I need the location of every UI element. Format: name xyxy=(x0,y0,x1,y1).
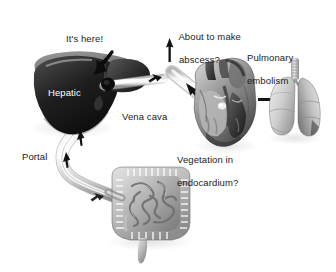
label-vena-cava: Vena cava xyxy=(122,111,167,122)
label-pulmonary-line2: embolism xyxy=(247,75,288,86)
diagram-canvas: It's here! Hepatic Portal Vena cava Abou… xyxy=(0,0,336,272)
label-hepatic: Hepatic xyxy=(48,87,81,98)
thrombus-illustration xyxy=(101,78,115,91)
label-abscess-question: About to make abscess? xyxy=(168,19,241,77)
label-pulmonary-embolism: Pulmonary embolism xyxy=(236,40,293,98)
label-its-here: It's here! xyxy=(66,33,103,44)
label-vegetation-line2: endocardium? xyxy=(177,177,238,188)
label-abscess-line1: About to make xyxy=(178,31,241,42)
label-abscess-line2: abscess? xyxy=(179,54,220,65)
label-vegetation-line1: Vegetation in xyxy=(177,154,233,165)
label-portal: Portal xyxy=(22,151,47,162)
label-vegetation-question: Vegetation in endocardium? xyxy=(166,142,238,200)
label-pulmonary-line1: Pulmonary xyxy=(247,52,293,63)
